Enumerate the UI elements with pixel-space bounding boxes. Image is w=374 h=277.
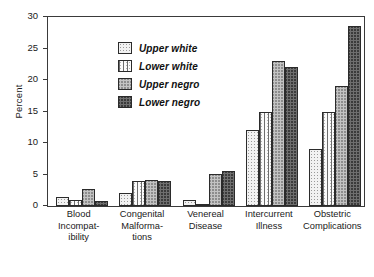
y-tick-label-25: 25 (8, 43, 38, 53)
y-tick-label-30: 30 (8, 11, 38, 21)
x-label-line: Blood (47, 209, 110, 221)
y-tick-label-20: 20 (8, 74, 38, 84)
x-label-3: VenerealDisease (174, 209, 237, 232)
bar-lower-white-4 (259, 112, 272, 207)
y-tick-label-0: 0 (8, 200, 38, 210)
bar-upper-negro-4 (272, 61, 285, 206)
bar-upper-white-2 (119, 193, 132, 206)
x-label-line: ibility (47, 232, 110, 244)
bar-upper-white-4 (246, 130, 259, 206)
bar-lower-white-5 (322, 112, 335, 207)
bar-group-intercurrent-illness (246, 17, 298, 206)
bar-lower-negro-1 (95, 201, 108, 206)
bar-group-congenital-malformations (119, 17, 171, 206)
x-label-line: Incompat- (47, 221, 110, 233)
bar-lower-negro-3 (222, 171, 235, 206)
bar-lower-negro-2 (158, 181, 171, 206)
bar-group-blood-incompatibility (56, 17, 108, 206)
bar-lower-negro-5 (348, 26, 361, 206)
bar-upper-white-3 (183, 200, 196, 206)
bar-upper-negro-5 (335, 86, 348, 206)
bar-group-obstetric-complications (309, 17, 361, 206)
x-label-line: Complications (301, 221, 364, 233)
x-label-line: Illness (237, 221, 300, 233)
bar-upper-negro-3 (209, 174, 222, 206)
x-label-2: CongenitalMalforma-tions (110, 209, 173, 244)
x-label-line: Venereal (174, 209, 237, 221)
y-tick-label-15: 15 (8, 106, 38, 116)
plot-area: Upper white Lower white Upper negro Lowe… (47, 16, 365, 207)
y-tick-label-10: 10 (8, 137, 38, 147)
x-label-line: Malforma- (110, 221, 173, 233)
bar-group-venereal-disease (183, 17, 235, 206)
x-label-line: tions (110, 232, 173, 244)
x-label-line: Congenital (110, 209, 173, 221)
plot-right-border (364, 17, 365, 206)
bar-lower-white-2 (132, 181, 145, 206)
x-label-line: Obstetric (301, 209, 364, 221)
bar-upper-white-1 (56, 197, 69, 206)
bar-upper-negro-2 (145, 180, 158, 206)
y-tick-label-5: 5 (8, 169, 38, 179)
x-label-line: Intercurrent (237, 209, 300, 221)
x-label-4: IntercurrentIllness (237, 209, 300, 232)
x-label-1: BloodIncompat-ibility (47, 209, 110, 244)
bar-chart: Percent 051015202530 Upper white Lower w… (0, 0, 374, 277)
bar-lower-white-1 (69, 200, 82, 206)
bar-lower-white-3 (196, 204, 209, 206)
bar-upper-white-5 (309, 149, 322, 206)
x-label-5: ObstetricComplications (301, 209, 364, 232)
x-label-line: Disease (174, 221, 237, 233)
bar-lower-negro-4 (285, 67, 298, 206)
bar-upper-negro-1 (82, 189, 95, 206)
